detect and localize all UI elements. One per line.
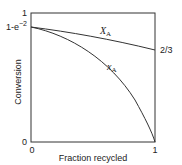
chart: XA xA 1 1-e−2 0 2/3 0 1 Fraction recycle… xyxy=(0,0,182,165)
y-tick-1: 1 xyxy=(22,8,27,18)
y-tick-1-minus-e-minus-2: 1-e−2 xyxy=(6,20,27,32)
series-x_A-line xyxy=(31,27,155,142)
x-tick-1: 1 xyxy=(152,145,157,155)
series-X_A-label: XA xyxy=(99,25,111,38)
y-axis-label: Conversion xyxy=(13,59,23,105)
x-tick-0: 0 xyxy=(29,145,34,155)
right-annotation-2-3: 2/3 xyxy=(160,45,173,55)
x-axis-label: Fraction recycled xyxy=(59,153,128,163)
series-X_A-line xyxy=(31,27,155,50)
series-x_A-label: xA xyxy=(106,61,117,74)
y-tick-0: 0 xyxy=(22,137,27,147)
